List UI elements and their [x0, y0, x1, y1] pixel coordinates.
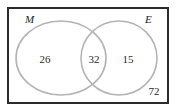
count-e-only: 15	[117, 54, 139, 65]
set-label-m: M	[25, 14, 34, 25]
count-m-only: 26	[34, 54, 56, 65]
count-outside: 72	[144, 86, 164, 97]
venn-diagram-figure: M E 26 32 15 72	[0, 0, 176, 112]
count-intersection: 32	[83, 54, 105, 65]
set-label-e: E	[145, 14, 152, 25]
